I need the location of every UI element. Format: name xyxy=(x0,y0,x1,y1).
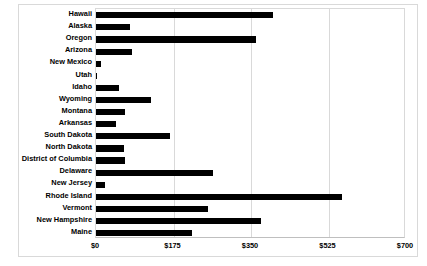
bar-row: District of Columbia xyxy=(96,154,404,166)
category-label: New Hampshire xyxy=(37,214,92,226)
bar-row: Maine xyxy=(96,227,404,239)
bar-row: Montana xyxy=(96,106,404,118)
bar[interactable] xyxy=(96,230,192,236)
bar[interactable] xyxy=(96,24,130,30)
bar[interactable] xyxy=(96,133,170,139)
x-tick-label: $350 xyxy=(242,241,258,250)
category-label: Maine xyxy=(71,226,92,238)
bar-row: Delaware xyxy=(96,166,404,178)
category-label: Wyoming xyxy=(59,93,92,105)
bar-row: New Hampshire xyxy=(96,215,404,227)
bar[interactable] xyxy=(96,206,208,212)
bar-row: Idaho xyxy=(96,82,404,94)
bar[interactable] xyxy=(96,157,125,163)
category-label: Oregon xyxy=(66,32,92,44)
x-tick-label: $525 xyxy=(319,241,335,250)
bar-row: Rhode Island xyxy=(96,191,404,203)
category-label: Hawaii xyxy=(69,8,92,20)
category-label: New Jersey xyxy=(51,177,92,189)
bar-row: South Dakota xyxy=(96,130,404,142)
bar-row: New Jersey xyxy=(96,178,404,190)
bar-row: Alaska xyxy=(96,21,404,33)
bar-row: Vermont xyxy=(96,203,404,215)
category-label: Arizona xyxy=(65,44,92,56)
plot-area: HawaiiAlaskaOregonArizonaNew MexicoUtahI… xyxy=(95,8,405,238)
bar[interactable] xyxy=(96,218,261,224)
bar[interactable] xyxy=(96,36,256,42)
category-label: Arkansas xyxy=(59,117,92,129)
bar[interactable] xyxy=(96,61,101,67)
bar-row: Arkansas xyxy=(96,118,404,130)
category-label: New Mexico xyxy=(50,56,92,68)
bar-row: Wyoming xyxy=(96,94,404,106)
x-tick-label: $0 xyxy=(91,241,99,250)
bar-row: Oregon xyxy=(96,33,404,45)
category-label: Idaho xyxy=(72,81,92,93)
category-label: Vermont xyxy=(62,202,92,214)
category-label: District of Columbia xyxy=(22,153,92,165)
category-label: Alaska xyxy=(68,20,92,32)
bar[interactable] xyxy=(96,97,151,103)
x-tick-label: $700 xyxy=(397,241,413,250)
bar[interactable] xyxy=(96,145,124,151)
bar[interactable] xyxy=(96,170,213,176)
x-axis: $0$175$350$525$700 xyxy=(95,241,405,255)
category-label: South Dakota xyxy=(44,129,92,141)
bar[interactable] xyxy=(96,194,342,200)
bar-row: North Dakota xyxy=(96,142,404,154)
bar-series: HawaiiAlaskaOregonArizonaNew MexicoUtahI… xyxy=(96,9,404,237)
category-label: Montana xyxy=(62,105,92,117)
category-label: Rhode Island xyxy=(46,190,92,202)
bar-row: Arizona xyxy=(96,45,404,57)
category-label: Utah xyxy=(76,69,92,81)
bar[interactable] xyxy=(96,182,105,188)
bar[interactable] xyxy=(96,49,132,55)
bar-row: New Mexico xyxy=(96,57,404,69)
bar[interactable] xyxy=(96,85,119,91)
category-label: Delaware xyxy=(60,165,92,177)
bar[interactable] xyxy=(96,73,97,79)
bar[interactable] xyxy=(96,12,273,18)
bar-row: Utah xyxy=(96,70,404,82)
category-label: North Dakota xyxy=(46,141,92,153)
bar-row: Hawaii xyxy=(96,9,404,21)
bar[interactable] xyxy=(96,109,125,115)
x-tick-label: $175 xyxy=(164,241,180,250)
bar[interactable] xyxy=(96,121,116,127)
chart-frame: HawaiiAlaskaOregonArizonaNew MexicoUtahI… xyxy=(18,4,418,257)
